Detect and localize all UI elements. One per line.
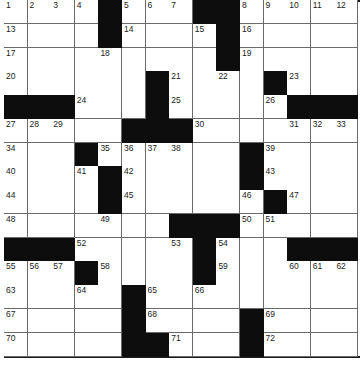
grid-cell[interactable]: 53 (169, 238, 193, 262)
grid-cell[interactable]: 71 (169, 333, 193, 357)
grid-cell[interactable] (311, 285, 335, 309)
grid-cell[interactable]: 62 (334, 261, 358, 285)
grid-cell[interactable] (287, 48, 311, 72)
grid-cell[interactable] (264, 261, 288, 285)
grid-cell[interactable]: 9 (264, 0, 288, 24)
grid-cell[interactable] (122, 95, 146, 119)
grid-cell[interactable] (334, 143, 358, 167)
grid-cell[interactable] (169, 285, 193, 309)
grid-cell[interactable]: 65 (146, 285, 170, 309)
grid-cell[interactable] (193, 190, 217, 214)
grid-cell[interactable] (146, 261, 170, 285)
grid-cell[interactable]: 19 (240, 48, 264, 72)
grid-cell[interactable] (334, 71, 358, 95)
grid-cell[interactable] (311, 333, 335, 357)
grid-cell[interactable] (334, 285, 358, 309)
grid-cell[interactable]: 13 (4, 24, 28, 48)
grid-cell[interactable] (193, 333, 217, 357)
grid-cell[interactable] (193, 166, 217, 190)
grid-cell[interactable] (28, 143, 52, 167)
grid-cell[interactable]: 61 (311, 261, 335, 285)
grid-cell[interactable] (146, 238, 170, 262)
grid-cell[interactable] (311, 71, 335, 95)
grid-cell[interactable] (169, 24, 193, 48)
grid-cell[interactable]: 56 (28, 261, 52, 285)
grid-cell[interactable] (287, 24, 311, 48)
grid-cell[interactable] (98, 333, 122, 357)
grid-cell[interactable]: 22 (216, 71, 240, 95)
grid-cell[interactable] (216, 190, 240, 214)
grid-cell[interactable]: 30 (193, 119, 217, 143)
grid-cell[interactable] (51, 143, 75, 167)
grid-cell[interactable] (311, 48, 335, 72)
grid-cell[interactable] (193, 309, 217, 333)
grid-cell[interactable] (287, 143, 311, 167)
grid-cell[interactable] (98, 95, 122, 119)
grid-cell[interactable]: 14 (122, 24, 146, 48)
grid-cell[interactable] (240, 119, 264, 143)
grid-cell[interactable] (28, 190, 52, 214)
grid-cell[interactable] (287, 285, 311, 309)
grid-cell[interactable]: 48 (4, 214, 28, 238)
grid-cell[interactable]: 72 (264, 333, 288, 357)
grid-cell[interactable]: 32 (311, 119, 335, 143)
grid-cell[interactable]: 50 (240, 214, 264, 238)
grid-cell[interactable]: 58 (98, 261, 122, 285)
grid-cell[interactable]: 3 (51, 0, 75, 24)
grid-cell[interactable]: 1 (4, 0, 28, 24)
grid-cell[interactable]: 45 (122, 190, 146, 214)
grid-cell[interactable] (287, 214, 311, 238)
grid-cell[interactable] (240, 238, 264, 262)
grid-cell[interactable] (264, 238, 288, 262)
grid-cell[interactable] (334, 166, 358, 190)
grid-cell[interactable] (193, 95, 217, 119)
grid-cell[interactable]: 55 (4, 261, 28, 285)
grid-cell[interactable]: 57 (51, 261, 75, 285)
grid-cell[interactable]: 44 (4, 190, 28, 214)
grid-cell[interactable]: 18 (98, 48, 122, 72)
grid-cell[interactable] (51, 48, 75, 72)
grid-cell[interactable]: 29 (51, 119, 75, 143)
grid-cell[interactable] (75, 119, 99, 143)
grid-cell[interactable] (51, 190, 75, 214)
grid-cell[interactable] (146, 214, 170, 238)
grid-cell[interactable] (122, 71, 146, 95)
grid-cell[interactable] (51, 24, 75, 48)
grid-cell[interactable]: 68 (146, 309, 170, 333)
grid-cell[interactable] (51, 333, 75, 357)
grid-cell[interactable] (122, 48, 146, 72)
grid-cell[interactable] (311, 309, 335, 333)
grid-cell[interactable] (28, 71, 52, 95)
grid-cell[interactable] (75, 190, 99, 214)
grid-cell[interactable] (216, 166, 240, 190)
grid-cell[interactable]: 36 (122, 143, 146, 167)
grid-cell[interactable] (287, 309, 311, 333)
grid-cell[interactable] (122, 214, 146, 238)
grid-cell[interactable] (98, 285, 122, 309)
grid-cell[interactable]: 47 (287, 190, 311, 214)
grid-cell[interactable]: 63 (4, 285, 28, 309)
grid-cell[interactable]: 27 (4, 119, 28, 143)
grid-cell[interactable] (334, 190, 358, 214)
grid-cell[interactable]: 11 (311, 0, 335, 24)
grid-cell[interactable] (287, 166, 311, 190)
grid-cell[interactable] (240, 285, 264, 309)
grid-cell[interactable] (51, 285, 75, 309)
grid-cell[interactable]: 31 (287, 119, 311, 143)
grid-cell[interactable] (75, 309, 99, 333)
grid-cell[interactable] (264, 24, 288, 48)
grid-cell[interactable] (169, 261, 193, 285)
grid-cell[interactable] (75, 24, 99, 48)
grid-cell[interactable]: 59 (216, 261, 240, 285)
grid-cell[interactable]: 40 (4, 166, 28, 190)
grid-cell[interactable] (311, 214, 335, 238)
grid-cell[interactable] (334, 333, 358, 357)
grid-cell[interactable] (146, 166, 170, 190)
grid-cell[interactable]: 70 (4, 333, 28, 357)
grid-cell[interactable]: 35 (98, 143, 122, 167)
grid-cell[interactable] (28, 166, 52, 190)
grid-cell[interactable]: 5 (122, 0, 146, 24)
grid-cell[interactable]: 20 (4, 71, 28, 95)
grid-cell[interactable]: 10 (287, 0, 311, 24)
grid-cell[interactable] (264, 285, 288, 309)
